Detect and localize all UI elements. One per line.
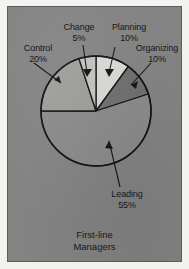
pie-label-control: Control 20% [10, 43, 66, 64]
pie-label-planning-pct: 10% [102, 33, 156, 44]
pie-label-leading: Leading 55% [100, 189, 154, 210]
pie-label-change-pct: 5% [53, 33, 105, 44]
figure-panel: Control 20% Change 5% Planning 10% Organ… [7, 6, 182, 262]
pie-label-control-name: Control [24, 43, 52, 53]
chart-caption: First-line Managers [8, 229, 181, 253]
chart-caption-line2: Managers [8, 241, 181, 253]
pie-label-planning: Planning 10% [102, 22, 156, 43]
pie-label-organizing-pct: 10% [126, 54, 182, 65]
pie-label-change: Change 5% [53, 22, 105, 43]
chart-caption-line1: First-line [8, 229, 181, 241]
pie-label-control-pct: 20% [10, 54, 66, 65]
pie-label-organizing-name: Organizing [136, 43, 179, 53]
pie-label-leading-name: Leading [111, 189, 142, 199]
pie-label-change-name: Change [64, 22, 95, 32]
pie-label-leading-pct: 55% [100, 200, 154, 211]
pie-label-organizing: Organizing 10% [126, 43, 182, 64]
pie-label-planning-name: Planning [112, 22, 146, 32]
